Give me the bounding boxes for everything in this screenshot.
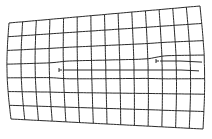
vertical-line — [7, 23, 11, 119]
lattice-grid: Distorted lattice grid with two edge dis… — [0, 0, 212, 139]
vertical-line — [105, 15, 108, 125]
dislocation-left-half-plane — [63, 70, 199, 71]
vertical-line — [200, 6, 205, 129]
vertical-line — [49, 19, 52, 121]
lattice-diagram: Distorted lattice grid with two edge dis… — [0, 0, 212, 139]
vertical-line — [173, 8, 177, 127]
vertical-line — [118, 13, 121, 124]
vertical-line — [132, 12, 135, 125]
vertical-line — [159, 10, 162, 127]
vertical-line — [35, 21, 38, 121]
vertical-line — [145, 11, 148, 126]
dislocation-right-half-plane — [160, 61, 202, 62]
vertical-line — [186, 7, 190, 128]
vertical-line — [21, 22, 25, 120]
dislocation-left-icon — [59, 68, 62, 72]
dislocation-right-icon — [156, 59, 159, 63]
